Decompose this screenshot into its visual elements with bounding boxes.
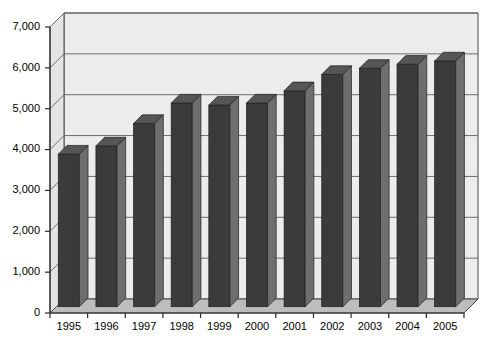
bar-1999 (209, 96, 239, 306)
bar-front-face (397, 64, 418, 306)
x-axis-tick-label: 1995 (57, 320, 81, 332)
x-axis-tick-label: 2004 (395, 320, 419, 332)
x-axis-tick-label: 1997 (132, 320, 156, 332)
bar-front-face (359, 68, 380, 306)
bar-front-face (96, 146, 117, 307)
bar-front-face (171, 103, 192, 307)
bar-side-face (456, 52, 465, 306)
x-axis-tick-label: 2005 (433, 320, 457, 332)
bar-front-face (246, 103, 267, 307)
bar-front-face (435, 61, 456, 307)
bar-front-face (209, 105, 230, 307)
bar-2003 (359, 60, 389, 307)
x-axis-tick-label: 1998 (169, 320, 193, 332)
bar-2005 (435, 52, 465, 306)
bar-side-face (305, 82, 314, 307)
bar-2002 (322, 66, 352, 307)
y-axis-labels: 01,0002,0003,0004,0005,0006,0007,000 (12, 20, 40, 318)
bar-2001 (284, 82, 314, 307)
x-axis-tick-label: 1999 (207, 320, 231, 332)
y-axis-tick-label: 0 (34, 306, 40, 318)
bar-side-face (343, 66, 352, 307)
bar-2000 (246, 94, 276, 306)
y-axis-tick-label: 5,000 (12, 102, 40, 114)
bar-1997 (134, 115, 164, 307)
y-axis-tick-label: 3,000 (12, 183, 40, 195)
bar-front-face (322, 74, 343, 306)
bar-1995 (58, 145, 88, 306)
bar-side-face (79, 145, 88, 306)
x-axis-tick-label: 1996 (94, 320, 118, 332)
bar-side-face (117, 137, 126, 306)
x-axis-tick-label: 2000 (245, 320, 269, 332)
x-axis-ticks (50, 313, 464, 318)
bar-side-face (155, 115, 164, 307)
y-axis-tick-label: 1,000 (12, 265, 40, 277)
bar-side-face (418, 56, 427, 307)
x-axis-labels: 1995199619971998199920002001200220032004… (57, 320, 458, 332)
bar-chart: 01,0002,0003,0004,0005,0006,0007,000 199… (0, 0, 496, 344)
bar-1998 (171, 94, 201, 306)
bar-side-face (192, 94, 201, 306)
bar-1996 (96, 137, 126, 306)
bar-front-face (134, 123, 155, 306)
y-axis-tick-label: 4,000 (12, 142, 40, 154)
y-axis-tick-label: 6,000 (12, 61, 40, 73)
y-axis-tick-label: 7,000 (12, 20, 40, 32)
y-axis-ticks (45, 27, 50, 313)
bar-side-face (268, 94, 277, 306)
y-axis-tick-label: 2,000 (12, 224, 40, 236)
x-axis-tick-label: 2003 (358, 320, 382, 332)
bar-side-face (380, 60, 389, 307)
bar-front-face (58, 154, 79, 307)
chart-canvas: 01,0002,0003,0004,0005,0006,0007,000 199… (0, 0, 496, 344)
bar-2004 (397, 56, 427, 307)
x-axis-tick-label: 2001 (282, 320, 306, 332)
bar-side-face (230, 96, 239, 306)
x-axis-tick-label: 2002 (320, 320, 344, 332)
bar-front-face (284, 91, 305, 307)
